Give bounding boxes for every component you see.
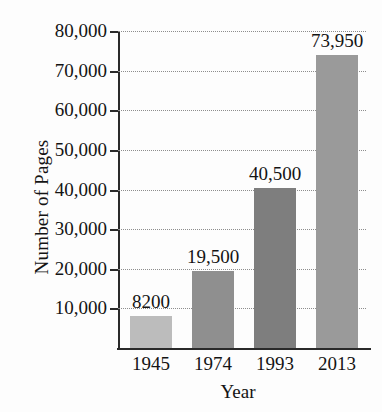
y-tick-label: 10,000 — [55, 297, 107, 319]
y-tick-label: 50,000 — [55, 139, 107, 161]
y-tick-mark — [110, 190, 118, 192]
y-tick-mark — [110, 269, 118, 271]
y-axis-title: Number of Pages — [31, 87, 53, 327]
bar-value-label: 73,950 — [311, 30, 363, 52]
bar-value-label: 40,500 — [249, 163, 301, 185]
y-tick-label: 20,000 — [55, 258, 107, 280]
y-tick-mark — [110, 110, 118, 112]
y-tick-label: 80,000 — [55, 20, 107, 42]
bar: 40,500 — [254, 188, 296, 348]
bar: 19,500 — [192, 271, 234, 348]
y-tick-label: 40,000 — [55, 179, 107, 201]
x-tick-label: 1945 — [132, 353, 170, 375]
x-tick-label: 1974 — [194, 353, 232, 375]
bar: 8200 — [130, 316, 172, 348]
y-tick-label: 30,000 — [55, 218, 107, 240]
y-tick-label: 70,000 — [55, 60, 107, 82]
bar-value-label: 8200 — [132, 291, 170, 313]
x-tick-label: 1993 — [256, 353, 294, 375]
y-tick-mark — [110, 229, 118, 231]
bar: 73,950 — [316, 55, 358, 348]
y-tick-mark — [110, 150, 118, 152]
x-tick-label: 2013 — [318, 353, 356, 375]
y-tick-mark — [110, 31, 118, 33]
x-axis-title: Year — [118, 381, 358, 403]
y-tick-label: 60,000 — [55, 99, 107, 121]
y-tick-mark — [110, 71, 118, 73]
bar-value-label: 19,500 — [187, 246, 239, 268]
bar-chart: Number of Pages 10,00020,00030,00040,000… — [0, 0, 382, 412]
y-tick-mark — [110, 308, 118, 310]
x-axis-line — [117, 348, 371, 350]
plot-area: 10,00020,00030,00040,00050,00060,00070,0… — [118, 31, 366, 348]
